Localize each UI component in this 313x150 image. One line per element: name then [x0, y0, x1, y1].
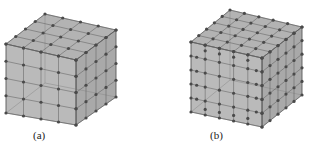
panel-b-label: (b) — [210, 129, 223, 141]
panel-a-label: (a) — [33, 129, 45, 141]
cube-mesh-figure — [0, 0, 313, 150]
